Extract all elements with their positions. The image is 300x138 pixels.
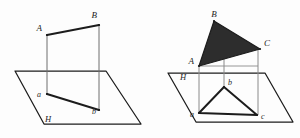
- left-label-A: A: [36, 23, 43, 33]
- right-vertex-a: [198, 112, 200, 114]
- right-label-B: B: [211, 9, 217, 19]
- left-label-B: B: [92, 10, 98, 20]
- left-label-b: b: [92, 107, 96, 116]
- right-vertex-c: [256, 114, 258, 116]
- right-label-c: c: [261, 112, 265, 121]
- geometry-figure: A B a b H: [0, 0, 300, 138]
- left-plane-h: [15, 71, 141, 124]
- right-panel: A B C a b c H: [168, 9, 293, 122]
- left-vertex-B: [98, 24, 100, 26]
- left-vertex-b: [98, 109, 100, 111]
- right-label-b: b: [228, 78, 232, 87]
- right-label-a: a: [190, 110, 194, 119]
- right-vertex-b: [223, 86, 225, 88]
- right-label-A: A: [188, 56, 195, 66]
- right-vertex-C: [259, 48, 261, 50]
- right-vertex-B: [213, 20, 215, 22]
- left-panel: A B a b H: [15, 10, 141, 124]
- right-label-plane-h: H: [179, 72, 187, 82]
- right-vertex-A: [198, 65, 200, 67]
- right-triangle-ABC: [199, 21, 260, 66]
- left-label-plane-h: H: [44, 114, 52, 124]
- left-segment-AB: [47, 25, 99, 35]
- left-vertex-a: [46, 93, 48, 95]
- left-label-a: a: [37, 90, 41, 99]
- right-label-C: C: [264, 38, 271, 48]
- diagram-svg: A B a b H: [0, 0, 300, 138]
- left-vertex-A: [46, 34, 48, 36]
- right-triangle-abc: [199, 87, 257, 115]
